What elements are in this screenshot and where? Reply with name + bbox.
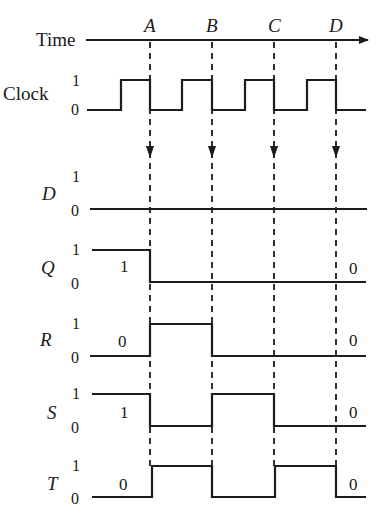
waveform-q	[92, 250, 366, 282]
level-high-label: 1	[72, 315, 80, 332]
level-high-label: 1	[72, 385, 80, 402]
end-value: 0	[349, 259, 358, 278]
down-arrow-icon	[332, 146, 340, 158]
level-high-label: 1	[72, 241, 80, 258]
start-value: 1	[120, 403, 129, 422]
level-high-label: 1	[72, 168, 80, 185]
signal-q: Q 1 0 1 0	[41, 241, 366, 292]
level-low-label: 0	[71, 349, 79, 366]
signal-label-clock: Clock	[3, 83, 49, 104]
signal-label-d: D	[41, 183, 56, 204]
signal-label-q: Q	[41, 257, 55, 278]
signal-label-s: S	[47, 402, 57, 423]
signal-clock: Clock 1 0	[3, 72, 366, 118]
signal-t: T 1 0 0 0	[47, 457, 366, 507]
timing-diagram: Time A B C D Clock 1 0 D 1 0 Q 1 0 1 0	[0, 0, 377, 532]
start-value: 1	[120, 257, 129, 276]
level-low-label: 0	[71, 275, 79, 292]
start-value: 0	[119, 475, 128, 494]
signal-label-t: T	[47, 473, 59, 494]
signal-r: R 1 0 0 0	[39, 315, 366, 366]
waveform-t	[92, 466, 366, 497]
waveform-s	[92, 394, 366, 426]
level-low-label: 0	[71, 490, 79, 507]
level-low-label: 0	[71, 101, 79, 118]
level-low-label: 0	[71, 419, 79, 436]
signal-d: D 1 0	[41, 168, 367, 219]
marker-label-a: A	[142, 15, 156, 36]
down-arrow-icon	[270, 146, 278, 158]
time-axis-label: Time	[36, 29, 75, 50]
end-value: 0	[349, 331, 358, 350]
clock-edge-arrows	[146, 146, 340, 158]
marker-label-d: D	[328, 15, 343, 36]
down-arrow-icon	[146, 146, 154, 158]
marker-label-b: B	[206, 15, 218, 36]
end-value: 0	[349, 403, 358, 422]
level-high-label: 1	[72, 457, 80, 474]
end-value: 0	[349, 475, 358, 494]
start-value: 0	[118, 332, 127, 351]
marker-label-c: C	[268, 15, 281, 36]
waveform-clock	[87, 80, 366, 110]
signal-s: S 1 0 1 0	[47, 385, 366, 436]
down-arrow-icon	[208, 146, 216, 158]
waveform-r	[90, 324, 366, 356]
level-low-label: 0	[71, 202, 79, 219]
signal-label-r: R	[39, 329, 52, 350]
level-high-label: 1	[72, 72, 80, 89]
